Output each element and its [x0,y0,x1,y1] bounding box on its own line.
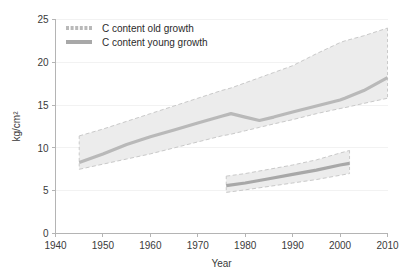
legend-label-0: C content old growth [102,23,194,34]
y-tick-label: 15 [37,100,49,111]
x-tick-label: 1980 [234,240,257,251]
x-tick-label: 2000 [329,240,352,251]
band-fill-1 [226,150,349,192]
chart-legend: C content old growthC content young grow… [66,23,208,48]
y-tick-label: 25 [37,14,49,25]
x-axis-title: Year [211,258,232,269]
chart-figure: 0510152025194019501960197019801990200020… [0,0,413,280]
x-tick-label: 1940 [44,240,67,251]
y-tick-label: 5 [43,185,49,196]
x-tick-label: 1970 [187,240,210,251]
x-tick-label: 1950 [92,240,115,251]
chart-canvas: 0510152025194019501960197019801990200020… [0,0,413,280]
x-tick-label: 1960 [139,240,162,251]
y-tick-label: 10 [37,143,49,154]
y-axis-title-group: kg/cm² [11,111,22,142]
y-tick-label: 0 [43,228,49,239]
y-tick-label: 20 [37,57,49,68]
x-tick-label: 1990 [282,240,305,251]
confidence-bands [79,28,387,192]
y-axis-title: kg/cm² [11,111,22,142]
x-tick-label: 2010 [376,240,399,251]
legend-label-1: C content young growth [102,37,208,48]
